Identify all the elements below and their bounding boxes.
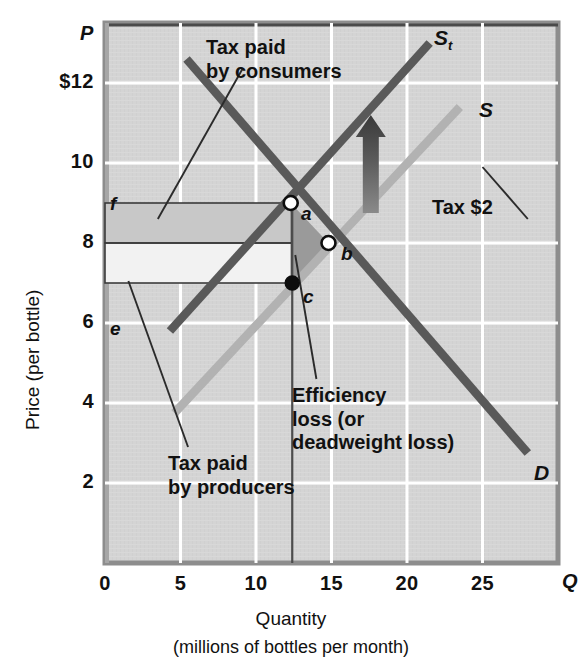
marker-point-a (284, 196, 298, 210)
x-tick-label-5: 5 (167, 572, 195, 595)
annotation-tax-paid-by-consumers: Tax paidby consumers (206, 36, 342, 83)
marker-point-c (285, 276, 299, 290)
y-axis-title: Price (per bottle) (22, 290, 44, 430)
annotation-tax-paid-by-producers-line-0: Tax paid (168, 452, 295, 476)
x-tick-label-20: 20 (393, 572, 421, 595)
annotation-tax-amount: Tax $2 (432, 196, 493, 220)
curve-label-demand: D (534, 461, 549, 485)
marker-point-b (321, 236, 335, 250)
region-tax-paid-by-producers (105, 243, 291, 283)
x-axis-subtitle: (millions of bottles per month) (0, 637, 582, 658)
point-label-a: a (301, 203, 312, 225)
annotation-efficiency-loss-line-1: loss (or (292, 408, 454, 432)
annotation-efficiency-loss-line-2: deadweight loss) (292, 431, 454, 455)
curve-label-supply: S (479, 98, 493, 122)
annotation-tax-paid-by-producers-line-1: by producers (168, 476, 295, 500)
x-axis-title: Quantity (0, 608, 582, 630)
x-tick-label-10: 10 (242, 572, 270, 595)
point-label-e: e (110, 318, 121, 340)
x-tick-label-0: 0 (91, 572, 119, 595)
annotation-tax-paid-by-consumers-line-1: by consumers (206, 60, 342, 84)
annotation-efficiency-loss: Efficiencyloss (ordeadweight loss) (292, 384, 454, 455)
chart-canvas (0, 0, 582, 669)
tax-incidence-chart: 0510152025246810$12PQPrice (per bottle)Q… (0, 0, 582, 669)
y-tick-label-8: 8 (20, 230, 94, 253)
curve-label-supply-after-tax: St (434, 26, 452, 53)
x-tick-label-25: 25 (469, 572, 497, 595)
annotation-tax-paid-by-consumers-line-0: Tax paid (206, 36, 342, 60)
point-label-c: c (303, 286, 314, 308)
curve-label-St-text: S (434, 26, 448, 49)
y-tick-label-2: 2 (20, 470, 94, 493)
annotation-efficiency-loss-line-0: Efficiency (292, 384, 454, 408)
y-axis-symbol-P: P (80, 22, 93, 45)
curve-label-St-subscript: t (448, 38, 452, 53)
x-axis-symbol-Q: Q (562, 570, 578, 593)
point-label-f: f (110, 193, 116, 215)
annotation-tax-paid-by-producers: Tax paidby producers (168, 452, 295, 499)
x-tick-label-15: 15 (318, 572, 346, 595)
y-tick-label-12: $12 (20, 70, 94, 93)
point-label-b: b (341, 243, 353, 265)
annotation-tax-amount-line-0: Tax $2 (432, 196, 493, 220)
y-tick-label-10: 10 (20, 150, 94, 173)
